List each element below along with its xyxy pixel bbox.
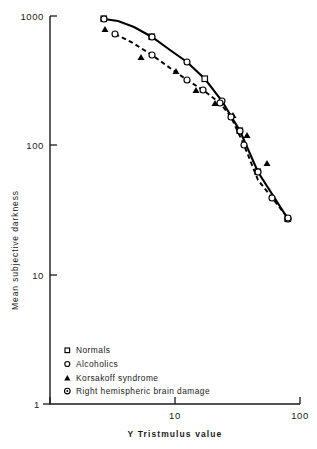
legend-item-right-hemispheric: Right hemispheric brain damage [65,386,211,396]
y-tick-label-1: 1 [34,399,40,410]
legend-marker-circle-icon [65,362,70,367]
legend-label-normals: Normals [76,345,110,355]
series-markers-alcoholics [101,16,291,222]
x-tick-label-100: 100 [291,410,309,421]
y-tick-label-10: 10 [32,270,44,281]
legend-item-korsakoff: Korsakoff syndrome [64,373,158,383]
y-tick-label-1000: 1000 [20,11,44,22]
legend-item-alcoholics: Alcoholics [65,359,118,369]
series-markers-normals [101,16,291,222]
x-tick-label-10: 10 [169,410,181,421]
legend-marker-square-icon [65,348,70,353]
legend-item-normals: Normals [65,345,110,355]
series-line-normals [104,19,288,219]
log-log-line-chart: 1000 100 10 1 10 100 Mean subjective dar… [0,0,317,449]
chart-figure: 1000 100 10 1 10 100 Mean subjective dar… [0,0,317,449]
legend-marker-triangle-icon [64,375,70,381]
x-axis-ticks [50,397,300,404]
y-tick-label-100: 100 [26,140,44,151]
legend-label-right-hemispheric: Right hemispheric brain damage [76,386,210,396]
x-axis-title: Y Tristmulus value [128,429,223,439]
legend-marker-circle-dot-center [66,390,68,392]
legend-label-alcoholics: Alcoholics [76,359,118,369]
legend-label-korsakoff: Korsakoff syndrome [76,373,158,383]
y-axis-title: Mean subjective darkness [10,190,20,310]
chart-legend: Normals Alcoholics Korsakoff syndrome Ri… [64,345,210,396]
series-line-right-hemispheric [115,34,288,218]
